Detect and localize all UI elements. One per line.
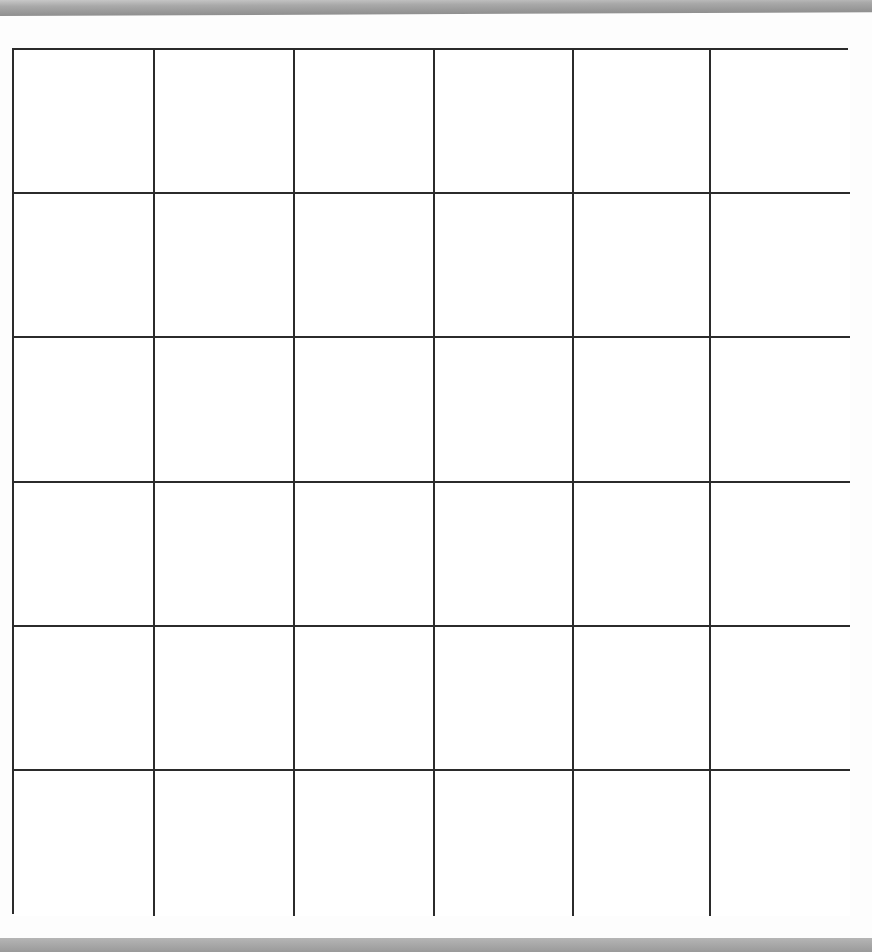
grid-cell-r2-c2 — [155, 194, 295, 338]
empty-6x6-grid — [12, 48, 848, 914]
grid-cell-r3-c3 — [295, 338, 435, 483]
grid-cell-r3-c4 — [435, 338, 574, 483]
grid-cell-r4-c6 — [711, 483, 850, 627]
grid-cell-r5-c2 — [155, 627, 295, 771]
grid-cell-r3-c6 — [711, 338, 850, 483]
grid-cell-r5-c4 — [435, 627, 574, 771]
grid-cell-r4-c5 — [574, 483, 711, 627]
grid-cell-r1-c3 — [295, 50, 435, 194]
grid-cell-r3-c2 — [155, 338, 295, 483]
grid-cell-r4-c1 — [14, 483, 155, 627]
grid-cell-r3-c5 — [574, 338, 711, 483]
grid-cell-r5-c5 — [574, 627, 711, 771]
grid-cell-r5-c6 — [711, 627, 850, 771]
grid-cell-r4-c2 — [155, 483, 295, 627]
grid-cell-r2-c4 — [435, 194, 574, 338]
grid-cell-r2-c6 — [711, 194, 850, 338]
grid-cell-r4-c4 — [435, 483, 574, 627]
grid-cell-r2-c5 — [574, 194, 711, 338]
grid-cell-r3-c1 — [14, 338, 155, 483]
grid-cell-r4-c3 — [295, 483, 435, 627]
grid-cell-r5-c3 — [295, 627, 435, 771]
grid-cell-r1-c6 — [711, 50, 850, 194]
grid-cell-r6-c2 — [155, 771, 295, 916]
top-scan-band — [0, 0, 872, 16]
grid-cell-r2-c3 — [295, 194, 435, 338]
grid-cell-r1-c4 — [435, 50, 574, 194]
grid-cell-r1-c5 — [574, 50, 711, 194]
grid-cell-r6-c4 — [435, 771, 574, 916]
grid-cell-r6-c5 — [574, 771, 711, 916]
grid-cell-r2-c1 — [14, 194, 155, 338]
grid-cell-r6-c6 — [711, 771, 850, 916]
bottom-scan-band — [0, 938, 872, 952]
grid-cell-r5-c1 — [14, 627, 155, 771]
grid-cell-r1-c1 — [14, 50, 155, 194]
grid-cell-r6-c1 — [14, 771, 155, 916]
grid-cell-r1-c2 — [155, 50, 295, 194]
grid-cell-r6-c3 — [295, 771, 435, 916]
